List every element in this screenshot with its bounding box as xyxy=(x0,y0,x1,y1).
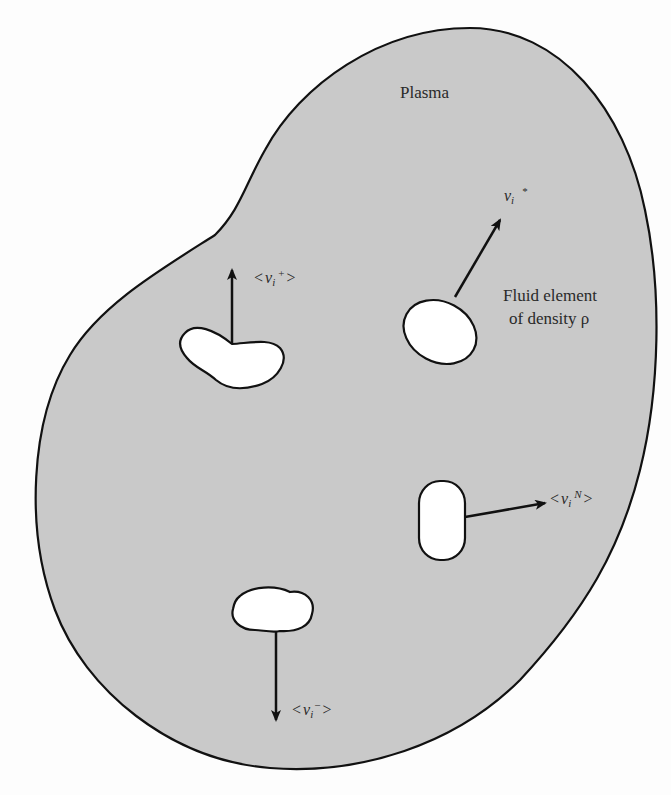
fluid-element-N xyxy=(419,481,465,560)
close-bracket: > xyxy=(322,701,331,718)
vector-label-minus: <vi−> xyxy=(290,700,333,720)
open-bracket: < xyxy=(292,701,301,718)
superscript: + xyxy=(278,267,284,279)
fluid-element-label-line1: Fluid element xyxy=(503,287,597,304)
superscript: * xyxy=(522,185,528,197)
vector-label-N: <viN> xyxy=(548,489,595,509)
superscript: − xyxy=(314,699,320,711)
open-bracket: < xyxy=(550,490,559,507)
diagram-canvas: Plasma Fluid element of density ρ <vi+> … xyxy=(0,0,671,795)
open-bracket: < xyxy=(254,269,263,286)
vector-label-plus: <vi+> xyxy=(252,268,297,288)
plasma-region xyxy=(36,28,657,769)
vector-label-star: vi* xyxy=(504,186,528,206)
fluid-element-minus xyxy=(232,587,312,631)
subscript: i xyxy=(568,497,571,509)
plasma-diagram xyxy=(0,0,671,795)
subscript: i xyxy=(511,194,514,206)
fluid-element-label-line2: of density ρ xyxy=(509,310,589,327)
close-bracket: > xyxy=(286,269,295,286)
subscript: i xyxy=(310,708,313,720)
subscript: i xyxy=(272,276,275,288)
superscript: N xyxy=(574,488,581,500)
plasma-label: Plasma xyxy=(400,84,449,101)
close-bracket: > xyxy=(584,490,593,507)
